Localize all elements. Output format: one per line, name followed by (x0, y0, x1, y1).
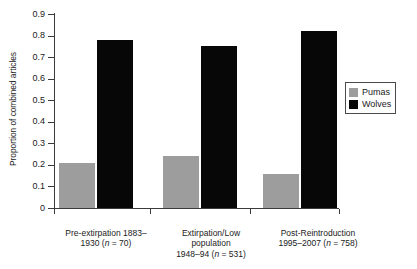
bar-wolves-group2 (201, 46, 237, 208)
y-axis-tick-label: 0.2 (1, 160, 45, 169)
x-axis-category-line: Post-Reintroduction (258, 228, 378, 238)
x-axis-category-line: population (156, 238, 266, 248)
x-axis-category-label: Extirpation/Low population 1948–94 (n = … (156, 228, 266, 259)
bar-pumas-group3 (263, 174, 299, 208)
x-axis-category-line: Extirpation/Low (156, 228, 266, 238)
x-axis-tick (54, 209, 55, 214)
legend-swatch-wolves-icon (349, 100, 358, 109)
y-axis-tick-label: 0.6 (1, 74, 45, 83)
x-axis-category-label: Post-Reintroduction 1995–2007 (n = 758) (258, 228, 378, 249)
y-axis-tick-label: 0.7 (1, 53, 45, 62)
chart-legend: Pumas Wolves (345, 82, 396, 114)
x-axis-category-line: 1948–94 (n = 531) (156, 249, 266, 259)
x-axis-tick (150, 209, 151, 214)
x-axis-tick (339, 209, 340, 214)
y-axis-tick-label: 0.3 (1, 139, 45, 148)
bar-pumas-group2 (163, 156, 199, 208)
y-axis-tick-label: 0.9 (1, 10, 45, 19)
x-axis-category-label: Pre-extirpation 1883– 1930 (n = 70) (46, 228, 166, 249)
x-axis-line (54, 208, 339, 209)
bar-wolves-group1 (97, 40, 133, 208)
y-axis-tick-label: 0.8 (1, 31, 45, 40)
legend-swatch-pumas-icon (349, 88, 358, 97)
legend-label-wolves: Wolves (362, 100, 391, 109)
y-axis-tick-label: 0 (1, 204, 45, 213)
legend-label-pumas: Pumas (362, 88, 390, 97)
bar-chart-figure: Proportion of combined articles 00.10.20… (0, 0, 417, 269)
bar-pumas-group1 (59, 163, 95, 208)
legend-item-wolves: Wolves (349, 98, 391, 110)
plot-area (54, 14, 338, 208)
x-axis-category-line: 1995–2007 (n = 758) (258, 238, 378, 248)
x-axis-category-line: 1930 (n = 70) (46, 238, 166, 248)
x-axis-tick (250, 209, 251, 214)
x-axis-category-line: Pre-extirpation 1883– (46, 228, 166, 238)
bar-wolves-group3 (301, 31, 337, 208)
y-axis-tick-label: 0.1 (1, 182, 45, 191)
legend-item-pumas: Pumas (349, 86, 391, 98)
y-axis-tick-label: 0.4 (1, 117, 45, 126)
y-axis-tick-label: 0.5 (1, 96, 45, 105)
